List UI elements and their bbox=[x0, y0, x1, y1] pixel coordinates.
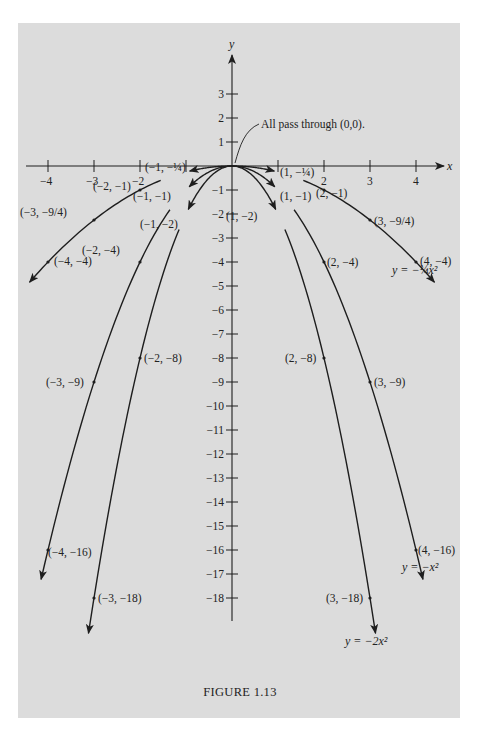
equation-label: y = −2x² bbox=[344, 634, 388, 648]
point-label: (−3, −18) bbox=[98, 592, 142, 605]
y-tick-label: −13 bbox=[206, 472, 224, 484]
data-point bbox=[368, 596, 371, 599]
x-tick-label: 2 bbox=[321, 175, 327, 187]
point-label: (−1, −2) bbox=[140, 218, 178, 231]
y-tick-label: −15 bbox=[206, 520, 224, 532]
data-point bbox=[92, 218, 95, 221]
y-tick-label: −12 bbox=[206, 448, 224, 460]
x-tick-label: −2 bbox=[132, 175, 144, 187]
data-point bbox=[92, 380, 95, 383]
data-point bbox=[322, 356, 325, 359]
curve-segment bbox=[232, 166, 276, 209]
point-label: (−3, −9/4) bbox=[20, 206, 67, 219]
point-label: (−1, −¼) bbox=[145, 161, 186, 174]
equation-label: y = −¼x² bbox=[391, 263, 438, 277]
point-label: (−2, −8) bbox=[144, 352, 182, 365]
x-tick-label: −4 bbox=[40, 175, 52, 187]
data-point bbox=[368, 380, 371, 383]
point-label: (−2, −1) bbox=[93, 180, 131, 193]
annotation-text: All pass through (0,0). bbox=[261, 118, 365, 131]
parabola-chart: xy−4−3−2234321−1−2−3−4−5−6−7−8−9−10−11−1… bbox=[0, 0, 480, 733]
y-tick-label: −17 bbox=[206, 568, 224, 580]
equation-label: y = −x² bbox=[401, 560, 439, 574]
point-label: (1, −2) bbox=[226, 210, 258, 223]
y-tick-label: −18 bbox=[206, 592, 224, 604]
point-label: (2, −4) bbox=[327, 256, 359, 269]
point-label: (−4, −16) bbox=[48, 546, 92, 559]
y-tick-label: 3 bbox=[218, 88, 224, 100]
x-tick-label: 3 bbox=[367, 175, 373, 187]
y-tick-label: −11 bbox=[206, 424, 224, 436]
y-tick-label: −6 bbox=[212, 304, 224, 316]
data-point bbox=[92, 596, 95, 599]
y-tick-label: −10 bbox=[206, 400, 224, 412]
curve-segment bbox=[188, 166, 232, 209]
data-point bbox=[138, 356, 141, 359]
y-tick-label: −1 bbox=[212, 184, 224, 196]
point-label: (4, −16) bbox=[418, 544, 455, 557]
point-label: (1, −1) bbox=[280, 190, 312, 203]
point-label: (3, −18) bbox=[326, 592, 363, 605]
point-label: (2, −1) bbox=[316, 187, 348, 200]
y-tick-label: −9 bbox=[212, 376, 224, 388]
annotation: All pass through (0,0). bbox=[235, 118, 365, 163]
y-tick-label: −8 bbox=[212, 352, 224, 364]
point-label: (−1, −1) bbox=[133, 190, 171, 203]
point-label: (−2, −4) bbox=[82, 244, 120, 257]
y-tick-label: −4 bbox=[212, 256, 224, 268]
data-point bbox=[322, 260, 325, 263]
point-label: (−4, −4) bbox=[54, 255, 92, 268]
point-label: (3, −9/4) bbox=[374, 215, 415, 228]
y-tick-label: −3 bbox=[212, 232, 224, 244]
curve-segment bbox=[88, 229, 179, 633]
point-labels: (−4, −4)(−3, −9/4)(−2, −1)(−1, −¼)(1, −¼… bbox=[20, 161, 455, 648]
point-label: (3, −9) bbox=[374, 376, 406, 389]
y-tick-label: −2 bbox=[212, 208, 224, 220]
curve-segment bbox=[285, 229, 376, 633]
y-tick-label: −7 bbox=[212, 328, 224, 340]
x-tick-label: 4 bbox=[413, 175, 419, 187]
figure-caption: FIGURE 1.13 bbox=[0, 685, 480, 700]
x-axis-label: x bbox=[446, 159, 453, 173]
point-label: (−3, −9) bbox=[46, 376, 84, 389]
y-tick-label: −5 bbox=[212, 280, 224, 292]
point-label: (1, −¼) bbox=[280, 166, 314, 179]
y-axis-label: y bbox=[228, 37, 235, 51]
data-point bbox=[368, 218, 371, 221]
data-point bbox=[138, 260, 141, 263]
point-label: (2, −8) bbox=[285, 352, 317, 365]
y-tick-label: −16 bbox=[206, 544, 224, 556]
data-point bbox=[46, 260, 49, 263]
axes: xy−4−3−2234321−1−2−3−4−5−6−7−8−9−10−11−1… bbox=[26, 37, 453, 621]
y-tick-label: −14 bbox=[206, 496, 224, 508]
y-tick-label: 2 bbox=[218, 112, 224, 124]
y-tick-label: 1 bbox=[218, 136, 224, 148]
